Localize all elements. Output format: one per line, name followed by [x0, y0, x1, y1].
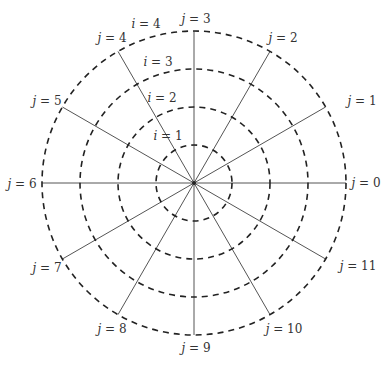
spoke-label-j4: j = 4 — [94, 31, 126, 45]
center-point — [192, 181, 196, 185]
spoke-j4 — [118, 51, 194, 183]
ring-label-i1: i = 1 — [153, 129, 182, 143]
spoke-j11 — [194, 183, 326, 259]
ring-label-i3: i = 3 — [143, 55, 172, 69]
ring-label-i2: i = 2 — [147, 91, 176, 105]
spoke-label-j9: j = 9 — [178, 341, 210, 355]
spoke-j1 — [194, 107, 326, 183]
spoke-label-j7: j = 7 — [29, 261, 61, 275]
spoke-label-j5: j = 5 — [29, 94, 61, 108]
spoke-label-j1: j = 1 — [344, 94, 376, 108]
spoke-label-j0: j = 0 — [348, 176, 380, 190]
spoke-label-j3: j = 3 — [178, 12, 210, 26]
spoke-label-j6: j = 6 — [4, 177, 36, 191]
spoke-label-j2: j = 2 — [265, 31, 297, 45]
spoke-label-j11: j = 11 — [337, 259, 377, 273]
ring-label-i4: i = 4 — [131, 17, 161, 31]
polar-grid-diagram: i = 1 i = 2 i = 3 i = 4 j = 0 j = 1 j = … — [0, 0, 384, 368]
spoke-label-j8: j = 8 — [94, 322, 126, 336]
spoke-label-j10: j = 10 — [263, 322, 303, 336]
ring-labels: i = 1 i = 2 i = 3 i = 4 — [131, 17, 182, 143]
